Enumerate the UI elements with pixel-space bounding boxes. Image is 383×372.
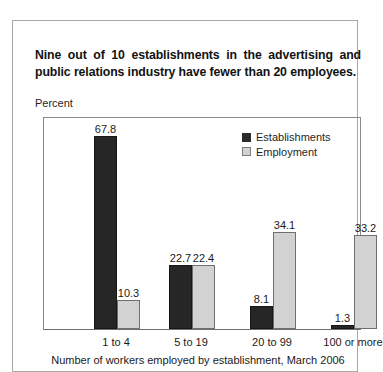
- bar-establishments: 1.3: [331, 325, 354, 329]
- chart-title: Nine out of 10 establishments in the adv…: [35, 47, 361, 81]
- bar-employment: 10.3: [117, 300, 140, 329]
- legend-label-establishments: Establishments: [256, 130, 331, 145]
- bar-employment: 33.2: [354, 235, 377, 329]
- legend-item-employment: Employment: [242, 145, 331, 160]
- bar-value-label: 8.1: [254, 293, 269, 305]
- chart-title-line-2: public relations industry have fewer tha…: [35, 64, 361, 81]
- chart-title-line-1: Nine out of 10 establishments in the adv…: [35, 47, 361, 64]
- bar-value-label: 67.8: [95, 123, 116, 135]
- legend-item-establishments: Establishments: [242, 130, 331, 145]
- bar-value-label: 22.4: [193, 252, 214, 264]
- legend-swatch-employment-icon: [242, 147, 251, 156]
- x-axis-tick-label: 5 to 19: [174, 335, 208, 349]
- bar-value-label: 34.1: [274, 219, 295, 231]
- bar-value-label: 22.7: [170, 252, 191, 264]
- x-axis-title: Number of workers employed by establishm…: [31, 353, 365, 367]
- bar-employment: 34.1: [273, 232, 296, 329]
- bar-employment: 22.4: [192, 265, 215, 329]
- chart-legend: Establishments Employment: [242, 130, 331, 159]
- bar-value-label: 1.3: [335, 312, 350, 324]
- bar-value-label: 33.2: [355, 222, 376, 234]
- legend-swatch-establishments-icon: [242, 133, 251, 142]
- x-axis-tick-label: 100 or more: [323, 335, 382, 349]
- chart-card: Nine out of 10 establishments in the adv…: [12, 20, 358, 372]
- plot-area: 67.810.322.722.48.134.11.333.2 Establish…: [43, 117, 361, 330]
- bar-establishments: 8.1: [250, 306, 273, 329]
- bar-establishments: 67.8: [94, 136, 117, 329]
- y-axis-label: Percent: [35, 97, 73, 109]
- bar-establishments: 22.7: [169, 265, 192, 329]
- legend-label-employment: Employment: [256, 145, 317, 160]
- x-axis-tick-labels: 1 to 45 to 1920 to 99100 or more: [43, 335, 361, 349]
- x-axis-tick-label: 1 to 4: [102, 335, 130, 349]
- bar-group: 22.722.4: [169, 118, 215, 329]
- bar-group: 1.333.2: [331, 118, 377, 329]
- bar-group: 67.810.3: [94, 118, 140, 329]
- bar-value-label: 10.3: [118, 287, 139, 299]
- x-axis-tick-label: 20 to 99: [252, 335, 292, 349]
